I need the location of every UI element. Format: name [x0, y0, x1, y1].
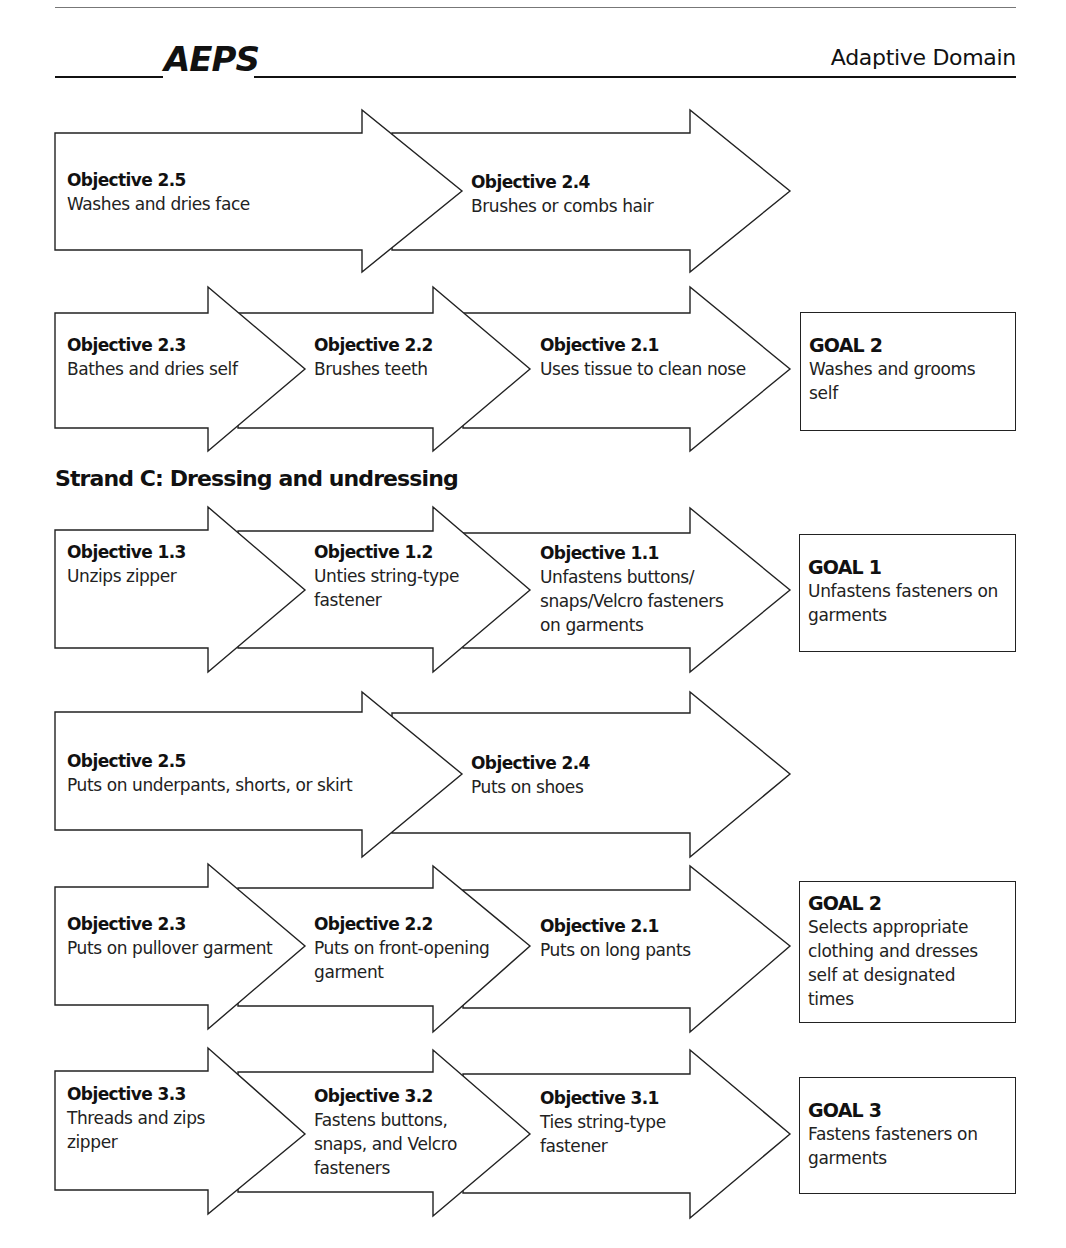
goal-desc: Unfastens fasteners on garments — [808, 579, 998, 627]
objective-desc: Uses tissue to clean nose — [540, 357, 746, 381]
objective-item: Objective 2.1 Puts on long pants — [540, 914, 691, 962]
objective-desc: Puts on underpants, shorts, or skirt — [67, 773, 352, 797]
objective-item: Objective 2.1 Uses tissue to clean nose — [540, 333, 746, 381]
goal-box: GOAL 1 Unfastens fasteners on garments — [799, 534, 1016, 652]
objective-desc: Washes and dries face — [67, 192, 250, 216]
objective-title: Objective 2.4 — [471, 751, 590, 775]
objective-desc: Ties string-type fastener — [540, 1110, 666, 1158]
objective-desc: Unfastens buttons/ snaps/Velcro fastener… — [540, 565, 723, 637]
goal-title: GOAL 3 — [808, 1098, 978, 1122]
objective-desc: Fastens buttons, snaps, and Velcro faste… — [314, 1108, 457, 1180]
objective-title: Objective 3.2 — [314, 1084, 457, 1108]
goal-box: GOAL 3 Fastens fasteners on garments — [799, 1077, 1016, 1194]
objective-desc: Unzips zipper — [67, 564, 186, 588]
goal-title: GOAL 2 — [809, 333, 975, 357]
goal-title: GOAL 1 — [808, 555, 998, 579]
objective-title: Objective 2.3 — [67, 912, 272, 936]
objective-item: Objective 1.2 Unties string-type fastene… — [314, 540, 459, 612]
goal-desc: Fastens fasteners on garments — [808, 1122, 978, 1170]
objective-item: Objective 1.3 Unzips zipper — [67, 540, 186, 588]
goal-desc: Selects appropriate clothing and dresses… — [808, 915, 978, 1011]
objective-desc: Brushes or combs hair — [471, 194, 653, 218]
objective-desc: Puts on front-opening garment — [314, 936, 489, 984]
objective-title: Objective 2.3 — [67, 333, 237, 357]
objective-item: Objective 2.5 Puts on underpants, shorts… — [67, 749, 352, 797]
objective-title: Objective 1.1 — [540, 541, 723, 565]
objective-desc: Puts on shoes — [471, 775, 590, 799]
objective-item: Objective 3.2 Fastens buttons, snaps, an… — [314, 1084, 457, 1180]
objective-item: Objective 2.3 Bathes and dries self — [67, 333, 237, 381]
objective-title: Objective 3.3 — [67, 1082, 205, 1106]
objective-title: Objective 1.2 — [314, 540, 459, 564]
objective-title: Objective 2.1 — [540, 333, 746, 357]
goal-desc: Washes and grooms self — [809, 357, 975, 405]
objective-title: Objective 2.4 — [471, 170, 653, 194]
objective-item: Objective 2.3 Puts on pullover garment — [67, 912, 272, 960]
objective-title: Objective 2.2 — [314, 333, 433, 357]
objective-title: Objective 3.1 — [540, 1086, 666, 1110]
objective-item: Objective 2.4 Brushes or combs hair — [471, 170, 653, 218]
objective-title: Objective 2.2 — [314, 912, 489, 936]
objective-desc: Threads and zips zipper — [67, 1106, 205, 1154]
objective-desc: Bathes and dries self — [67, 357, 237, 381]
objective-item: Objective 2.2 Puts on front-opening garm… — [314, 912, 489, 984]
objective-title: Objective 1.3 — [67, 540, 186, 564]
objective-desc: Brushes teeth — [314, 357, 433, 381]
goal-box: GOAL 2 Washes and grooms self — [800, 312, 1016, 431]
objective-item: Objective 2.5 Washes and dries face — [67, 168, 250, 216]
objective-title: Objective 2.1 — [540, 914, 691, 938]
objective-title: Objective 2.5 — [67, 168, 250, 192]
objective-desc: Puts on long pants — [540, 938, 691, 962]
objective-item: Objective 2.4 Puts on shoes — [471, 751, 590, 799]
objective-title: Objective 2.5 — [67, 749, 352, 773]
goal-box: GOAL 2 Selects appropriate clothing and … — [799, 881, 1016, 1023]
objective-item: Objective 3.3 Threads and zips zipper — [67, 1082, 205, 1154]
strand-title: Strand C: Dressing and undressing — [55, 466, 458, 491]
objective-desc: Unties string-type fastener — [314, 564, 459, 612]
objective-desc: Puts on pullover garment — [67, 936, 272, 960]
objective-item: Objective 3.1 Ties string-type fastener — [540, 1086, 666, 1158]
goal-title: GOAL 2 — [808, 891, 978, 915]
objective-item: Objective 2.2 Brushes teeth — [314, 333, 433, 381]
objective-item: Objective 1.1 Unfastens buttons/ snaps/V… — [540, 541, 723, 637]
